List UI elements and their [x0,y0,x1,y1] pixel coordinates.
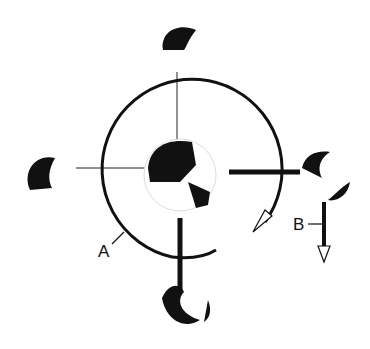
label-b: B [293,216,304,233]
diagram-canvas [0,0,370,349]
sphere-right [302,152,352,201]
leader-line-a [112,232,124,244]
label-a: A [98,243,109,260]
sphere-left [28,157,55,190]
force-arrow-b [318,202,330,262]
sphere-top [163,27,196,50]
central-sphere [144,139,216,211]
sphere-bottom [162,286,210,324]
